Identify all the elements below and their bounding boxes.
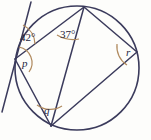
angle-label-p: p [21, 57, 28, 69]
geometry-canvas: 42° 37° p q r [0, 0, 151, 140]
angle-label-q: q [44, 104, 50, 116]
main-circle [15, 6, 139, 130]
angle-label-37: 37° [60, 28, 75, 40]
angle-label-42: 42° [20, 31, 35, 43]
angle-label-r: r [126, 46, 131, 58]
geometry-figure: 42° 37° p q r [0, 0, 151, 140]
